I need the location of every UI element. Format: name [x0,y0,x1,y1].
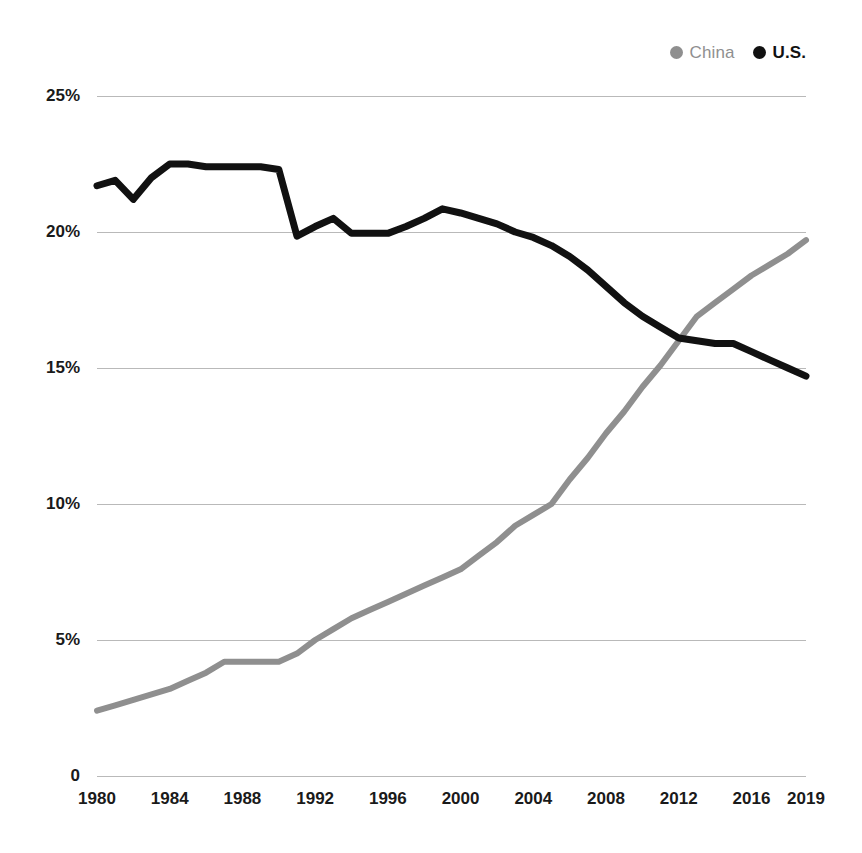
circle-dot-icon [753,46,766,59]
y-tick-label: 15% [46,358,80,378]
x-tick-label: 2008 [587,789,625,809]
y-tick-label: 20% [46,222,80,242]
legend-entry-china[interactable]: China [670,44,735,61]
x-tick-label: 1980 [78,789,116,809]
x-tick-label: 2016 [733,789,771,809]
y-axis: 25%20%15%10%5%0 [0,0,80,853]
plot-area [97,96,806,776]
y-tick-label: 25% [46,86,80,106]
x-tick-label: 1988 [224,789,262,809]
x-tick-label: 2004 [514,789,552,809]
legend-label-china: China [690,44,735,61]
y-tick-label: 5% [55,630,80,650]
series-line-china [97,240,806,711]
x-tick-label: 2019 [787,789,825,809]
chart-legend: China U.S. [670,40,806,64]
series-lines [97,96,806,776]
line-chart: China U.S. 25%20%15%10%5%0 1980198419881… [0,0,862,853]
x-tick-label: 1984 [151,789,189,809]
series-line-us [97,164,806,376]
x-tick-label: 1996 [369,789,407,809]
circle-dot-icon [670,46,683,59]
y-tick-label: 0 [71,766,80,786]
x-tick-label: 2012 [660,789,698,809]
legend-entry-us[interactable]: U.S. [753,44,806,61]
x-tick-label: 2000 [442,789,480,809]
y-tick-label: 10% [46,494,80,514]
x-tick-label: 1992 [296,789,334,809]
gridline [97,776,806,777]
legend-label-us: U.S. [773,44,806,61]
